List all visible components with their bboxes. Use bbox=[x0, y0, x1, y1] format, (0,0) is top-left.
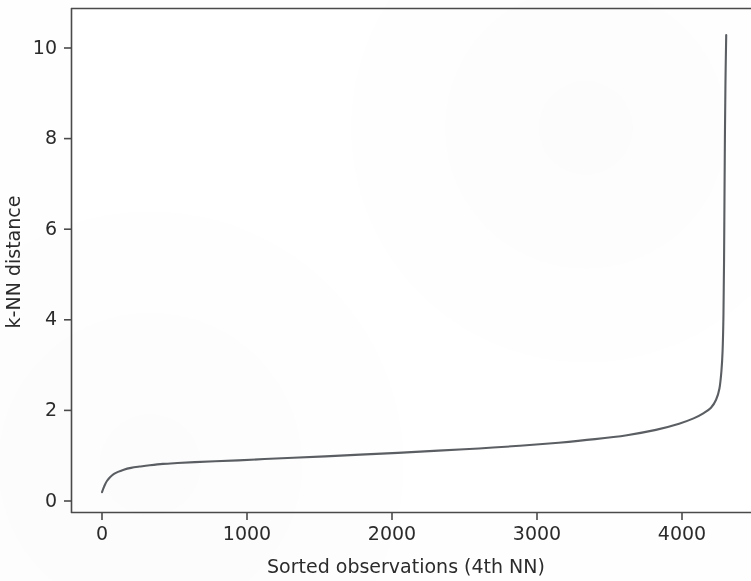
x-tick-label-1000: 1000 bbox=[223, 522, 271, 544]
x-tick-label-0: 0 bbox=[96, 522, 108, 544]
y-tick-label-2: 2 bbox=[45, 398, 57, 420]
y-tick-label-4: 4 bbox=[45, 307, 57, 329]
chart-figure: 0 2 4 6 8 10 0 1000 2000 3000 4000 Sorte… bbox=[0, 0, 751, 581]
x-tick-label-2000: 2000 bbox=[368, 522, 416, 544]
y-axis-tick-labels: 0 2 4 6 8 10 bbox=[33, 36, 57, 511]
x-tick-label-4000: 4000 bbox=[658, 522, 706, 544]
x-axis-title: Sorted observations (4th NN) bbox=[267, 555, 545, 577]
y-tick-label-0: 0 bbox=[45, 489, 57, 511]
knn-distance-plot: 0 2 4 6 8 10 0 1000 2000 3000 4000 Sorte… bbox=[0, 0, 751, 581]
y-axis-ticks bbox=[64, 48, 71, 501]
x-tick-label-3000: 3000 bbox=[513, 522, 561, 544]
x-axis-tick-labels: 0 1000 2000 3000 4000 bbox=[96, 522, 706, 544]
y-axis-title: k-NN distance bbox=[2, 196, 24, 329]
y-tick-label-8: 8 bbox=[45, 126, 57, 148]
y-tick-label-10: 10 bbox=[33, 36, 57, 58]
x-axis-ticks bbox=[102, 513, 682, 520]
y-tick-label-6: 6 bbox=[45, 217, 57, 239]
plot-background bbox=[71, 8, 751, 513]
